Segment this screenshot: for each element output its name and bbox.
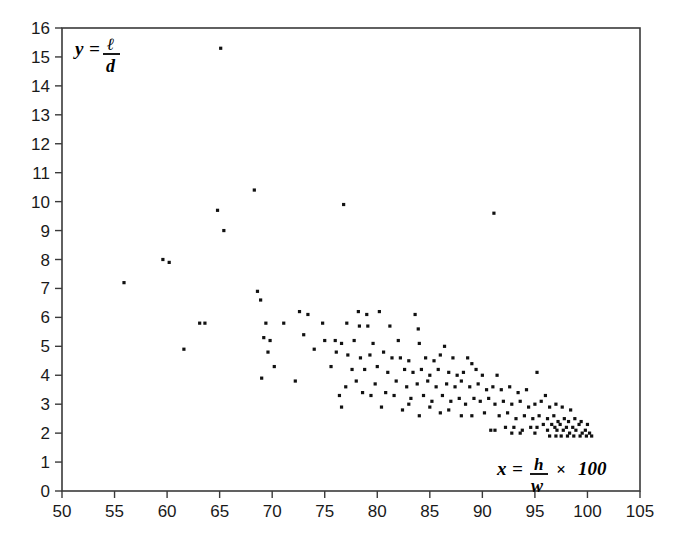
data-point [441, 394, 444, 397]
y-tick-label: 1 [41, 453, 50, 472]
y-axis-label-equals: = [89, 38, 100, 59]
x-tick-label: 85 [420, 502, 439, 521]
data-point [358, 324, 361, 327]
data-point [555, 429, 558, 432]
data-point [355, 379, 358, 382]
data-point [449, 400, 452, 403]
data-point [508, 385, 511, 388]
y-tick-label: 6 [41, 308, 50, 327]
y-tick-label: 3 [41, 395, 50, 414]
scatter-plot-figure: 50556065707580859095100105 0123456789101… [0, 0, 681, 539]
data-point [264, 322, 267, 325]
data-point [294, 379, 297, 382]
data-point [554, 403, 557, 406]
data-point [565, 426, 568, 429]
x-tick-label: 90 [473, 502, 492, 521]
data-point [298, 310, 301, 313]
y-axis-label-numerator: ℓ [107, 35, 114, 54]
data-point [556, 420, 559, 423]
data-point [521, 429, 524, 432]
data-point [447, 371, 450, 374]
x-tick-label: 50 [53, 502, 72, 521]
y-tick-label: 16 [31, 19, 50, 38]
data-point [334, 339, 337, 342]
data-point [266, 351, 269, 354]
data-point [483, 411, 486, 414]
data-point [345, 322, 348, 325]
data-point [435, 385, 438, 388]
data-point [548, 434, 551, 437]
data-point [416, 382, 419, 385]
data-point [585, 434, 588, 437]
data-point [554, 434, 557, 437]
data-point [392, 394, 395, 397]
data-point [504, 426, 507, 429]
data-point [567, 420, 570, 423]
data-point [485, 388, 488, 391]
data-point [533, 403, 536, 406]
data-point [256, 290, 259, 293]
data-point [357, 310, 360, 313]
data-point [447, 408, 450, 411]
data-point [451, 356, 454, 359]
data-point [571, 426, 574, 429]
data-point [414, 313, 417, 316]
data-point [340, 342, 343, 345]
data-point [368, 353, 371, 356]
x-tick-label: 100 [573, 502, 601, 521]
data-point [443, 345, 446, 348]
data-point [470, 414, 473, 417]
data-point [168, 261, 171, 264]
data-point [491, 385, 494, 388]
data-point [548, 405, 551, 408]
data-point [439, 411, 442, 414]
data-point [540, 400, 543, 403]
data-point [559, 423, 562, 426]
data-point [590, 434, 593, 437]
data-point [366, 324, 369, 327]
y-axis-ticks: 012345678910111213141516 [31, 19, 62, 501]
y-tick-label: 0 [41, 482, 50, 501]
data-point [510, 432, 513, 435]
data-point [363, 368, 366, 371]
data-point [525, 388, 528, 391]
data-point [273, 365, 276, 368]
data-point [407, 403, 410, 406]
data-point [374, 382, 377, 385]
data-point [268, 339, 271, 342]
y-tick-label: 13 [31, 106, 50, 125]
data-point [500, 388, 503, 391]
data-point [401, 408, 404, 411]
data-point [470, 362, 473, 365]
data-point [321, 322, 324, 325]
data-point [535, 371, 538, 374]
data-point [426, 379, 429, 382]
data-point [489, 429, 492, 432]
x-tick-label: 75 [315, 502, 334, 521]
data-point [578, 434, 581, 437]
y-axis-label-lhs: y [73, 38, 84, 59]
data-point [514, 417, 517, 420]
x-axis-label-times: × [556, 460, 566, 479]
data-point [259, 298, 262, 301]
data-point [562, 429, 565, 432]
data-point [439, 353, 442, 356]
data-point [253, 188, 256, 191]
data-point [544, 394, 547, 397]
y-tick-label: 9 [41, 222, 50, 241]
x-tick-label: 95 [525, 502, 544, 521]
data-point [219, 47, 222, 50]
data-point [122, 281, 125, 284]
data-point [477, 382, 480, 385]
data-point [313, 348, 316, 351]
data-point [561, 405, 564, 408]
data-point [533, 432, 536, 435]
y-tick-label: 11 [32, 164, 50, 183]
data-point [390, 356, 393, 359]
data-point [460, 379, 463, 382]
data-point [542, 423, 545, 426]
data-point [369, 394, 372, 397]
data-point [216, 209, 219, 212]
data-point [553, 426, 556, 429]
data-point [566, 434, 569, 437]
